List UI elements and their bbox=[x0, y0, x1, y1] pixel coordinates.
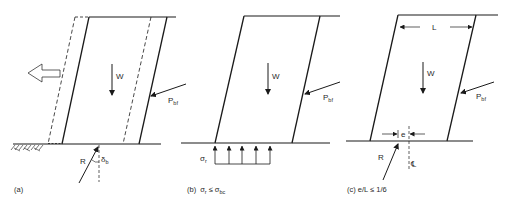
wall-face-right bbox=[447, 15, 476, 141]
angle-arc bbox=[92, 160, 99, 162]
wall-face-right bbox=[139, 17, 167, 144]
bearing-stress-arrows bbox=[215, 146, 270, 164]
displaced-face-left-dashed bbox=[48, 17, 75, 144]
earth-pressure-label: Pbf bbox=[476, 92, 486, 102]
length-label: L bbox=[432, 23, 437, 32]
panel-c-overturning: L W Pbf e ℄ R (c) e/L ≤ 1/6 bbox=[346, 15, 498, 194]
panel-b-bearing: W Pbf σr (b)σr≤σbc bbox=[181, 16, 340, 195]
angle-label: δb bbox=[101, 155, 109, 165]
weight-label: W bbox=[427, 69, 435, 78]
sliding-direction-arrow-icon bbox=[28, 64, 60, 82]
earth-pressure-arrow bbox=[151, 84, 186, 96]
wall-face-left bbox=[370, 15, 398, 141]
retaining-wall-stability-diagram: W Pbf R δb (a) W Pbf σr (b)σr≤σ bbox=[0, 0, 506, 202]
wall-face-left bbox=[215, 16, 244, 143]
wall-face-right bbox=[292, 16, 320, 143]
wall-face-left bbox=[62, 17, 89, 144]
centerline-label: ℄ bbox=[410, 160, 417, 169]
panel-a-caption: (a) bbox=[14, 185, 24, 194]
panel-c-caption: (c) e/L ≤ 1/6 bbox=[347, 185, 387, 194]
weight-label: W bbox=[116, 72, 124, 81]
earth-pressure-label: Pbf bbox=[168, 96, 178, 106]
reaction-label: R bbox=[80, 157, 86, 166]
stress-label: σr bbox=[200, 154, 207, 164]
earth-pressure-label: Pbf bbox=[323, 93, 333, 103]
eccentricity-label: e bbox=[401, 130, 406, 139]
reaction-label: R bbox=[378, 153, 384, 162]
panel-a-sliding: W Pbf R δb (a) bbox=[11, 17, 186, 194]
displaced-face-right-dashed bbox=[123, 17, 151, 144]
weight-label: W bbox=[272, 72, 280, 81]
ground-hatching bbox=[11, 145, 43, 151]
reaction-arrow bbox=[383, 144, 398, 180]
panel-b-caption: (b)σr≤σbc bbox=[187, 185, 225, 195]
